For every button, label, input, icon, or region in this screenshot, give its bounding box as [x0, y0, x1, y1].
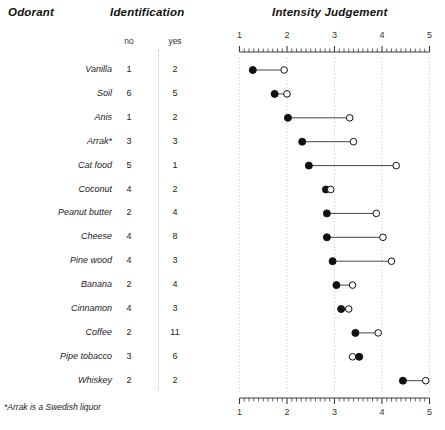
filled-circle-marker — [284, 114, 291, 121]
odorant-label: Whiskey — [78, 375, 112, 385]
odorant-label: Arrak* — [87, 136, 112, 146]
filled-circle-marker — [338, 306, 345, 313]
axis-tick-label-bottom: 3 — [325, 407, 345, 417]
cell-no-count: 3 — [118, 136, 140, 146]
axis-tick-label-top: 1 — [230, 30, 250, 40]
data-row-marker — [338, 306, 352, 313]
axis-tick-label-bottom: 1 — [230, 407, 250, 417]
cell-no-count: 2 — [118, 279, 140, 289]
filled-circle-marker — [356, 353, 363, 360]
cell-no-count: 1 — [118, 64, 140, 74]
open-circle-marker — [327, 186, 334, 193]
cell-yes-count: 11 — [162, 327, 188, 337]
cell-yes-count: 2 — [162, 64, 188, 74]
odorant-figure: Odorant Identification Intensity Judgeme… — [0, 0, 445, 430]
data-row-marker — [249, 67, 287, 74]
cell-yes-count: 5 — [162, 88, 188, 98]
data-row-marker — [352, 329, 382, 336]
cell-yes-count: 2 — [162, 184, 188, 194]
cell-no-count: 2 — [118, 375, 140, 385]
odorant-label: Anis — [94, 112, 112, 122]
filled-circle-marker — [329, 258, 336, 265]
cell-yes-count: 2 — [162, 112, 188, 122]
cell-yes-count: 1 — [162, 160, 188, 170]
data-row-marker — [305, 162, 399, 169]
axis-tick-label-top: 3 — [325, 30, 345, 40]
cell-no-count: 4 — [118, 231, 140, 241]
axis-ruler — [240, 46, 430, 52]
filled-circle-marker — [323, 210, 330, 217]
open-circle-marker — [373, 210, 380, 217]
data-row-marker — [333, 282, 356, 289]
axis-ruler — [240, 398, 430, 404]
data-row-marker — [322, 186, 334, 193]
open-circle-marker — [346, 115, 353, 122]
odorant-label: Vanilla — [85, 64, 112, 74]
data-row-marker — [399, 377, 429, 384]
odorant-label: Coconut — [78, 184, 112, 194]
open-circle-marker — [393, 162, 400, 169]
cell-yes-count: 3 — [162, 303, 188, 313]
open-circle-marker — [349, 282, 356, 289]
filled-circle-marker — [352, 329, 359, 336]
filled-circle-marker — [323, 234, 330, 241]
cell-yes-count: 8 — [162, 231, 188, 241]
subheader-yes: yes — [162, 36, 188, 46]
filled-circle-marker — [322, 186, 329, 193]
odorant-label: Peanut butter — [58, 207, 112, 217]
odorant-label: Pipe tobacco — [60, 351, 112, 361]
cell-yes-count: 3 — [162, 255, 188, 265]
cell-no-count: 2 — [118, 207, 140, 217]
cell-no-count: 4 — [118, 184, 140, 194]
cell-no-count: 5 — [118, 160, 140, 170]
data-row-marker — [329, 258, 395, 265]
open-circle-marker — [345, 306, 352, 313]
cell-yes-count: 2 — [162, 375, 188, 385]
subheader-no: no — [118, 36, 140, 46]
cell-yes-count: 6 — [162, 351, 188, 361]
filled-circle-marker — [271, 90, 278, 97]
open-circle-marker — [349, 354, 356, 361]
cell-no-count: 2 — [118, 327, 140, 337]
data-row-marker — [349, 353, 362, 360]
axis-tick-label-bottom: 2 — [277, 407, 297, 417]
column-header-odorant: Odorant — [8, 6, 54, 18]
cell-no-count: 3 — [118, 351, 140, 361]
filled-circle-marker — [333, 282, 340, 289]
data-row-marker — [323, 210, 379, 217]
data-row-marker — [323, 234, 386, 241]
cell-yes-count: 3 — [162, 136, 188, 146]
odorant-label: Coffee — [85, 327, 112, 337]
axis-tick-label-bottom: 4 — [372, 407, 392, 417]
odorant-label: Cinnamon — [71, 303, 112, 313]
column-header-intensity-judgement: Intensity Judgement — [272, 6, 388, 18]
column-divider — [158, 50, 159, 390]
cell-yes-count: 4 — [162, 207, 188, 217]
axis-tick-label-top: 5 — [420, 30, 440, 40]
column-header-identification: Identification — [110, 6, 184, 18]
cell-no-count: 4 — [118, 255, 140, 265]
data-row-marker — [271, 90, 290, 97]
odorant-label: Pine wood — [70, 255, 112, 265]
cell-no-count: 4 — [118, 303, 140, 313]
odorant-label: Banana — [81, 279, 112, 289]
filled-circle-marker — [399, 377, 406, 384]
axis-tick-label-top: 2 — [277, 30, 297, 40]
open-circle-marker — [281, 67, 288, 74]
filled-circle-marker — [249, 67, 256, 74]
data-row-marker — [299, 138, 357, 145]
open-circle-marker — [380, 234, 387, 241]
filled-circle-marker — [305, 162, 312, 169]
odorant-label: Cat food — [78, 160, 112, 170]
odorant-label: Soil — [97, 88, 112, 98]
open-circle-marker — [350, 138, 357, 145]
footnote: *Arrak is a Swedish liquor — [4, 402, 101, 412]
open-circle-marker — [422, 377, 429, 384]
cell-no-count: 1 — [118, 112, 140, 122]
axis-tick-label-top: 4 — [372, 30, 392, 40]
data-row-marker — [284, 114, 353, 121]
cell-no-count: 6 — [118, 88, 140, 98]
open-circle-marker — [375, 330, 382, 337]
open-circle-marker — [388, 258, 395, 265]
filled-circle-marker — [299, 138, 306, 145]
